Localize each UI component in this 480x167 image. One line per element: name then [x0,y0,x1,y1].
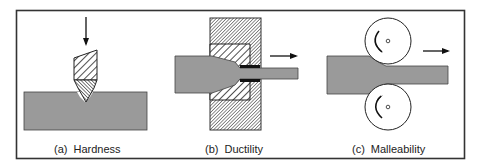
material-properties-diagram: (a)Hardness (b)Ductility (c)Malleability [0,0,480,167]
die-throat-bottom [240,79,260,82]
caption-malleability: (c)Malleability [352,143,426,155]
top-roller-axle [386,39,390,43]
bottom-roller-axle [386,105,390,109]
die-throat-top [240,65,260,68]
caption-ductility: (b)Ductility [205,143,263,155]
caption-hardness: (a)Hardness [54,143,121,155]
